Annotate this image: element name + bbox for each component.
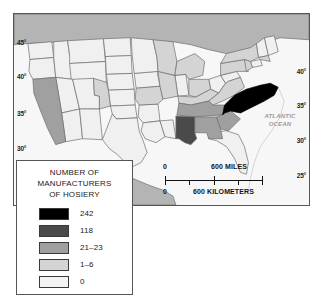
scale-ruler	[165, 176, 263, 185]
scale-tick-quarter	[189, 180, 190, 185]
legend-value-242: 242	[80, 209, 94, 218]
legend-item: 118	[39, 222, 132, 239]
scale-km-row: 0 600 KILOMETERS	[163, 188, 288, 198]
legend-value-21-23: 21–23	[80, 243, 103, 252]
ocean-label-line-1: ATLANTIC	[258, 113, 302, 121]
legend-items: 242 118 21–23 1–6 0	[17, 205, 132, 290]
lat-label-right-40: 40°	[297, 68, 306, 75]
lat-label-right-30: 30°	[297, 137, 306, 144]
legend-title-line-3: OF HOSIERY	[17, 189, 132, 200]
legend-value-118: 118	[80, 226, 93, 235]
legend-title: NUMBER OF MANUFACTURERS OF HOSIERY	[17, 167, 132, 200]
legend-title-line-2: MANUFACTURERS	[17, 178, 132, 189]
scale-km-zero: 0	[163, 188, 167, 195]
legend-value-1-6: 1–6	[80, 260, 94, 269]
lat-label-left-45: 45°	[17, 39, 26, 46]
lat-label-left-40: 40°	[17, 73, 26, 80]
lat-label-right-25: 25°	[297, 172, 306, 179]
legend-value-0: 0	[80, 277, 85, 286]
lat-label-left-35: 35°	[17, 110, 26, 117]
scale-miles-label: 600 MILES	[211, 163, 247, 170]
scale-miles-row: 0 600 MILES	[163, 163, 288, 173]
scale-tick-start	[165, 176, 166, 185]
legend-swatch-0	[39, 276, 69, 288]
atlantic-ocean-label: ATLANTIC OCEAN	[258, 113, 302, 128]
legend-swatch-1-6	[39, 259, 69, 271]
legend-title-line-1: NUMBER OF	[17, 167, 132, 178]
legend-swatch-21-23	[39, 242, 69, 254]
legend-item: 0	[39, 273, 132, 290]
scale-tick-end	[262, 176, 263, 185]
map-figure: 45° 40° 35° 30° 40° 35° 30° 25° ATLANTIC…	[0, 0, 321, 305]
scale-tick-mid	[214, 176, 215, 185]
ocean-label-line-2: OCEAN	[258, 121, 302, 129]
scale-tick-three-quarter	[238, 180, 239, 185]
scale-miles-zero: 0	[163, 163, 167, 170]
legend-item: 1–6	[39, 256, 132, 273]
scale-km-label: 600 KILOMETERS	[193, 188, 254, 195]
lat-label-left-30: 30°	[17, 145, 26, 152]
lat-label-right-35: 35°	[297, 102, 306, 109]
legend-item: 242	[39, 205, 132, 222]
legend-swatch-118	[39, 225, 69, 237]
scale-bar: 0 600 MILES 0 600 KILOMETERS	[163, 163, 288, 199]
legend-swatch-242	[39, 208, 69, 220]
map-legend: NUMBER OF MANUFACTURERS OF HOSIERY 242 1…	[16, 160, 133, 295]
legend-item: 21–23	[39, 239, 132, 256]
